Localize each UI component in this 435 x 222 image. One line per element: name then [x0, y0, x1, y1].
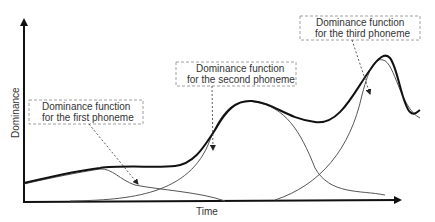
pointer-arrow: [212, 86, 213, 150]
annotation-line1: Dominance function: [316, 17, 404, 28]
first-phoneme-curve: [24, 169, 225, 201]
pointer-arrow: [352, 40, 370, 94]
y-axis-label: Dominance: [10, 87, 21, 138]
pointer-arrow: [89, 124, 138, 184]
dominance-diagram: Dominance Time Dominance function for th…: [0, 0, 435, 222]
annotation-line1: Dominance function: [196, 63, 284, 74]
x-axis-label: Time: [196, 206, 218, 217]
annotation-third-phoneme: Dominance function for the third phoneme: [300, 16, 420, 94]
annotation-line1: Dominance function: [42, 101, 130, 112]
annotation-line2: for the first phoneme: [42, 112, 134, 123]
annotation-second-phoneme: Dominance function for the second phonem…: [176, 62, 296, 150]
annotation-line2: for the third phoneme: [315, 28, 410, 39]
annotation-line2: for the second phoneme: [187, 74, 295, 85]
